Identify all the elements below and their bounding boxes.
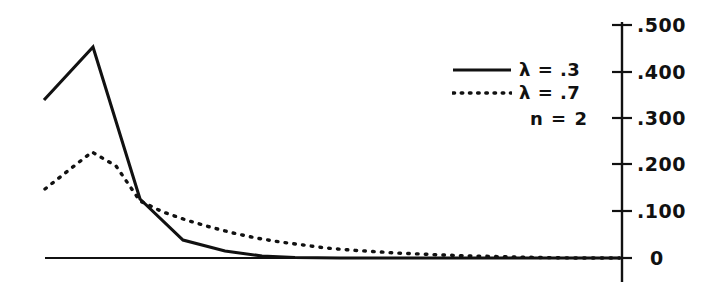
y-tick-label-200: .200 (637, 155, 686, 174)
chart-plot-area (0, 0, 702, 299)
legend-entry-lambda-07: λ = .7 (452, 81, 602, 104)
legend-note-label: n = 2 (530, 110, 588, 128)
chart-figure: .500 .400 .300 .200 .100 0 λ = .3 λ = .7… (0, 0, 702, 299)
legend-label-lambda-03: λ = .3 (519, 61, 580, 79)
y-tick-label-0: 0 (650, 249, 664, 268)
y-tick-label-400: .400 (637, 63, 686, 82)
legend-note: n = 2 (452, 110, 602, 128)
legend-swatch-dotted-icon (452, 85, 512, 101)
y-tick-label-100: .100 (637, 202, 686, 221)
legend-entry-lambda-03: λ = .3 (452, 58, 602, 81)
chart-legend: λ = .3 λ = .7 n = 2 (452, 58, 602, 128)
legend-label-lambda-07: λ = .7 (519, 84, 580, 102)
y-tick-label-500: .500 (637, 16, 686, 35)
legend-swatch-solid-icon (452, 62, 512, 78)
y-tick-label-300: .300 (637, 109, 686, 128)
